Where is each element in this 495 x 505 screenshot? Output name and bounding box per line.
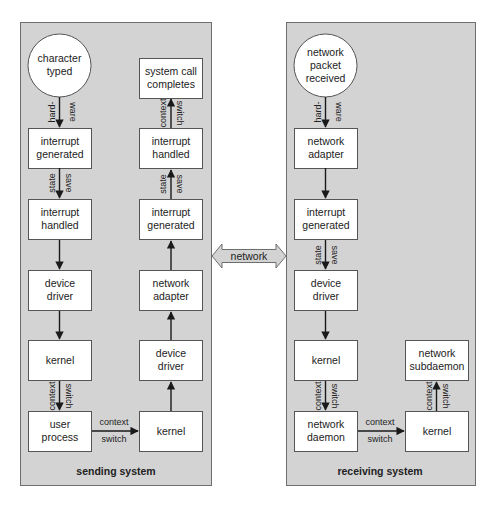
node-network-adapter: network adapter: [295, 129, 358, 169]
receiving-system-panel: network packet received hard- ware netwo…: [287, 23, 476, 486]
node-text: handled: [152, 148, 190, 160]
node-interrupt-handled: interrupt handled: [140, 129, 203, 169]
node-text: kernel: [423, 425, 452, 437]
edge-label: save: [175, 174, 185, 193]
node-device-driver: device driver: [140, 341, 203, 381]
node-text: received: [306, 72, 346, 84]
interrupt-flow-diagram: character typed hard- ware interrupt gen…: [0, 0, 495, 505]
node-text: network: [307, 46, 345, 58]
node-text: system call: [145, 65, 197, 77]
node-kernel: kernel: [140, 412, 203, 452]
node-text: interrupt: [152, 206, 191, 218]
edge-label: context: [365, 417, 395, 427]
node-text: driver: [47, 290, 74, 302]
edge-label: switch: [330, 383, 340, 408]
edge-label: ware: [334, 101, 344, 122]
sending-system-panel: character typed hard- ware interrupt gen…: [21, 23, 212, 486]
node-network-adapter: network adapter: [140, 271, 203, 311]
edge-label: state: [158, 174, 168, 194]
node-text: device: [45, 277, 76, 289]
edge-label: state: [313, 245, 323, 265]
node-text: adapter: [308, 148, 344, 160]
node-text: device: [311, 277, 342, 289]
node-text: generated: [302, 219, 349, 231]
network-connector: network: [212, 244, 286, 268]
receiving-system-label: receiving system: [337, 465, 422, 477]
node-text: interrupt: [41, 206, 80, 218]
node-text: network: [308, 135, 346, 147]
node-text: network: [419, 347, 457, 359]
node-kernel: kernel: [295, 341, 358, 381]
node-text: packet: [310, 59, 341, 71]
node-device-driver: device driver: [295, 271, 358, 311]
node-text: interrupt: [152, 135, 191, 147]
node-text: character: [38, 52, 82, 64]
edge-label: switch: [175, 100, 185, 125]
node-user-process: user process: [29, 412, 92, 452]
node-text: daemon: [307, 431, 345, 443]
node-interrupt-generated: interrupt generated: [140, 200, 203, 240]
edge-label: save: [330, 245, 340, 264]
svg-text:character: character: [38, 52, 82, 64]
node-text: typed: [47, 65, 73, 77]
node-text: network: [153, 277, 191, 289]
edge-label: hard-: [47, 101, 57, 122]
edge-label: context: [313, 381, 323, 411]
edge-label: context: [424, 381, 434, 411]
node-interrupt-generated: interrupt generated: [295, 200, 358, 240]
node-network-daemon: network daemon: [295, 412, 358, 452]
edge-label: switch: [64, 383, 74, 408]
edge-label: switch: [441, 383, 451, 408]
edge-label: context: [47, 381, 57, 411]
edge-label: save: [64, 173, 74, 192]
node-text: user: [50, 418, 71, 430]
node-text: handled: [41, 219, 79, 231]
node-network-subdaemon: network subdaemon: [406, 341, 469, 381]
node-text: network: [308, 418, 346, 430]
node-text: generated: [147, 219, 194, 231]
node-text: device: [156, 347, 187, 359]
node-kernel: kernel: [406, 412, 469, 452]
node-character-typed: character typed: [28, 34, 91, 97]
node-text: kernel: [46, 354, 75, 366]
node-system-call-completes: system call completes: [140, 59, 203, 99]
node-text: driver: [158, 360, 185, 372]
edge-label: ware: [68, 101, 78, 122]
node-text: completes: [147, 78, 195, 90]
node-kernel: kernel: [29, 341, 92, 381]
edge-label: state: [47, 173, 57, 193]
edge-label: hard-: [313, 101, 323, 122]
node-text: generated: [36, 148, 83, 160]
node-interrupt-generated: interrupt generated: [29, 129, 92, 169]
node-text: subdaemon: [410, 360, 465, 372]
node-text: interrupt: [41, 135, 80, 147]
node-text: kernel: [312, 354, 341, 366]
svg-text:typed: typed: [47, 65, 73, 77]
node-text: interrupt: [307, 206, 346, 218]
node-text: process: [42, 431, 79, 443]
node-text: driver: [313, 290, 340, 302]
node-interrupt-handled: interrupt handled: [29, 200, 92, 240]
edge-label: context: [158, 98, 168, 128]
edge-label: switch: [101, 434, 126, 444]
edge-label: context: [99, 417, 129, 427]
node-text: kernel: [157, 425, 186, 437]
network-label: network: [231, 250, 269, 262]
node-network-packet-received: network packet received: [294, 34, 357, 97]
node-text: adapter: [153, 290, 189, 302]
edge-label: switch: [367, 434, 392, 444]
sending-system-label: sending system: [76, 465, 155, 477]
node-device-driver: device driver: [29, 271, 92, 311]
